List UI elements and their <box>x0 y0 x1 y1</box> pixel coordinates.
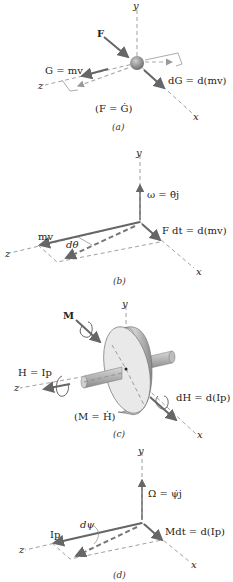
momentum-label: mv <box>38 231 53 242</box>
angular-momentum-label: H = Ip <box>18 367 52 378</box>
panel-c: y z x M H = Ip <box>13 298 231 440</box>
parallelogram-outline <box>52 540 162 559</box>
change-angular-momentum-label: dH = d(Ip) <box>176 392 231 403</box>
omega-label: Ω = ψ̇j <box>148 488 182 499</box>
impulse-vector <box>142 224 160 240</box>
z-axis-label: z <box>37 80 44 91</box>
momentum-label: Ip <box>50 529 60 540</box>
caption-a: (a) <box>112 122 125 132</box>
momentum-vector <box>40 222 140 245</box>
trajectory-right <box>145 53 182 66</box>
change-momentum-vector <box>144 70 164 88</box>
x-axis-label: x <box>196 266 202 277</box>
y-axis-label: y <box>137 445 144 456</box>
panel-d: y z x Ω = ψ̇j Ip dψ Mdt = d(Ip) (d) <box>18 445 225 580</box>
caption-c: (c) <box>113 429 126 439</box>
angle-label: dψ <box>80 519 94 530</box>
x-axis-label: x <box>193 111 199 122</box>
x-axis-label: x <box>191 559 197 570</box>
force-label: F <box>97 28 104 39</box>
z-axis-label: z <box>4 248 11 259</box>
angle-arc <box>94 526 99 544</box>
impulse-label: Mdt = d(Ip) <box>165 526 225 537</box>
caption-b: (b) <box>113 276 126 286</box>
gyroscope-figure: y z x F G = mv dG = d(mv) (F = Ġ) (a) y … <box>0 0 233 582</box>
panel-b: y z x ω = θ̇j mv dθ F dt = d(mv) (b) <box>4 147 227 286</box>
y-axis-label: y <box>121 298 128 309</box>
angle-label: dθ <box>66 239 78 250</box>
momentum-vector <box>54 523 142 543</box>
momentum-label: G = mv <box>45 65 83 76</box>
omega-label: ω = θ̇j <box>147 189 179 200</box>
x-axis-label: x <box>197 429 203 440</box>
y-axis-label: y <box>135 147 142 158</box>
parallelogram-outline <box>38 242 160 262</box>
impulse-vector <box>144 524 162 540</box>
angle-arc <box>78 237 92 245</box>
z-axis-label: z <box>13 382 20 393</box>
moment-label: M <box>63 310 74 321</box>
impulse-label: F dt = d(mv) <box>162 225 227 236</box>
momentum-vector <box>82 69 108 76</box>
change-angular-momentum-vector <box>150 397 176 420</box>
center-point <box>125 368 128 371</box>
trajectory-left <box>62 80 78 91</box>
panel-a: y z x F G = mv dG = d(mv) (F = Ġ) (a) <box>37 0 227 132</box>
change-momentum-label: dG = d(mv) <box>168 75 227 86</box>
caption-d: (d) <box>113 570 126 580</box>
disk <box>96 322 157 417</box>
z-axis-label: z <box>18 544 25 555</box>
equation-label: (F = Ġ) <box>95 103 133 114</box>
force-vector <box>104 37 128 57</box>
particle <box>130 56 144 70</box>
y-axis-label: y <box>132 0 139 11</box>
equation-label: (M = Ḣ) <box>74 411 116 422</box>
